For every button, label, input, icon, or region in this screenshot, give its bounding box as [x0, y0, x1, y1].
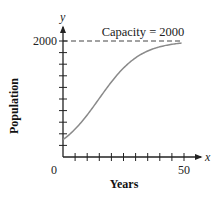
x-axis-variable: x [204, 150, 211, 164]
y-axis-title: Population [7, 78, 21, 134]
logistic-growth-chart: y x 2000 0 50 Capacity = 2000 Years Popu… [0, 0, 219, 197]
y-max-tick-label: 2000 [33, 34, 57, 48]
population-curve [63, 43, 182, 140]
y-axis-variable: y [59, 10, 66, 24]
capacity-label: Capacity = 2000 [102, 25, 185, 39]
x-max-tick-label: 50 [178, 163, 190, 177]
origin-label: 0 [51, 163, 57, 177]
x-axis-title: Years [110, 177, 139, 191]
